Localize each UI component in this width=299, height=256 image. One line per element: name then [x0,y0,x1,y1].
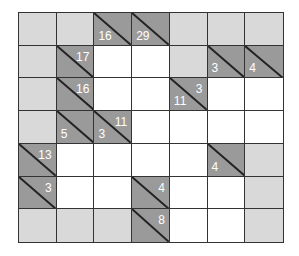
entry-cell[interactable] [245,78,283,111]
clue-cell: 4 [208,144,246,177]
down-clue-sum: 4 [249,62,256,74]
across-clue-sum: 17 [76,51,89,63]
entry-cell[interactable] [94,78,132,111]
across-clue-sum: 11 [115,116,127,128]
entry-cell[interactable] [94,177,132,210]
down-clue-sum: 11 [174,95,186,107]
across-clue-sum: 8 [158,214,165,226]
blocked-cell [245,13,283,46]
clue-cell: 13 [19,144,57,177]
clue-cell: 3 [208,46,246,79]
blocked-cell [94,209,132,242]
blocked-cell [245,209,283,242]
entry-cell[interactable] [208,209,246,242]
entry-cell[interactable] [94,144,132,177]
entry-cell[interactable] [170,111,208,144]
clue-cell: 29 [132,13,170,46]
clue-cell: 3 [19,177,57,210]
entry-cell[interactable] [170,209,208,242]
entry-cell[interactable] [132,78,170,111]
clue-cell: 4 [245,46,283,79]
entry-cell[interactable] [132,46,170,79]
entry-cell[interactable] [132,111,170,144]
down-clue-sum: 3 [212,62,219,74]
down-clue-sum: 3 [98,128,105,140]
down-clue-sum: 4 [212,161,219,173]
blocked-cell [57,13,95,46]
entry-cell[interactable] [245,111,283,144]
blocked-cell [245,177,283,210]
clue-cell: 4 [132,177,170,210]
down-clue-sum: 16 [98,30,111,42]
clue-cell: 311 [94,111,132,144]
blocked-cell [19,78,57,111]
clue-cell: 113 [170,78,208,111]
blocked-cell [245,144,283,177]
entry-cell[interactable] [132,144,170,177]
clue-cell: 16 [94,13,132,46]
blocked-cell [170,13,208,46]
kakuro-board: 16291734161135311134348 [18,12,284,243]
blocked-cell [170,46,208,79]
clue-cell: 17 [57,46,95,79]
entry-cell[interactable] [94,46,132,79]
entry-cell[interactable] [170,177,208,210]
across-clue-sum: 16 [76,83,89,95]
blocked-cell [19,13,57,46]
clue-cell: 16 [57,78,95,111]
entry-cell[interactable] [208,78,246,111]
clue-cell: 5 [57,111,95,144]
down-clue-sum: 5 [61,128,68,140]
across-clue-sum: 4 [158,182,165,194]
blocked-cell [19,46,57,79]
entry-cell[interactable] [57,144,95,177]
across-clue-sum: 3 [45,182,52,194]
entry-cell[interactable] [208,177,246,210]
blocked-cell [19,111,57,144]
across-clue-sum: 3 [196,83,203,95]
entry-cell[interactable] [57,177,95,210]
blocked-cell [57,209,95,242]
entry-cell[interactable] [208,111,246,144]
entry-cell[interactable] [170,144,208,177]
down-clue-sum: 29 [136,30,149,42]
clue-cell: 8 [132,209,170,242]
across-clue-sum: 13 [38,149,51,161]
blocked-cell [208,13,246,46]
blocked-cell [19,209,57,242]
